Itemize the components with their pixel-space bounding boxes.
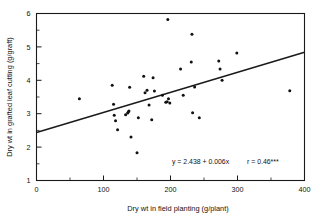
- data-point: [190, 33, 193, 36]
- data-point: [168, 102, 171, 105]
- data-point: [190, 60, 193, 63]
- data-point: [182, 94, 185, 97]
- x-tick-label: 300: [232, 185, 244, 194]
- x-tick-label: 0: [35, 185, 39, 194]
- data-point: [111, 84, 114, 87]
- x-axis-title: Dry wt in field planting (g/plant): [127, 204, 228, 213]
- plot-frame: [37, 14, 305, 181]
- data-point: [221, 79, 224, 82]
- data-point: [128, 86, 131, 89]
- data-point-group: [78, 18, 291, 154]
- data-point: [167, 97, 170, 100]
- data-point: [116, 128, 119, 131]
- data-point: [137, 116, 140, 119]
- y-tick-label: 3: [27, 109, 31, 118]
- data-point: [153, 89, 156, 92]
- data-point: [136, 151, 139, 154]
- correlation-label: r = 0.46***: [247, 158, 279, 165]
- regression-line: [37, 52, 305, 132]
- scatter-plot-figure: 0100200300400 123456 Dry wt in field pla…: [0, 0, 321, 217]
- x-tick-label: 100: [98, 185, 110, 194]
- data-point: [191, 111, 194, 114]
- y-tick-label: 1: [27, 176, 31, 185]
- data-point: [166, 100, 169, 103]
- x-tick-label: 400: [299, 185, 311, 194]
- data-point: [193, 85, 196, 88]
- y-axis-tick-labels: 123456: [27, 9, 31, 185]
- regression-equation-label: y = 2.438 + 0.006x: [172, 158, 230, 166]
- data-point: [129, 136, 132, 139]
- data-point: [146, 89, 149, 92]
- data-point: [217, 59, 220, 62]
- data-point: [114, 119, 117, 122]
- data-point: [219, 67, 222, 70]
- data-point: [150, 118, 153, 121]
- data-point: [198, 116, 201, 119]
- y-tick-label: 2: [27, 143, 31, 152]
- plot-canvas: 0100200300400 123456 Dry wt in field pla…: [0, 0, 321, 217]
- data-point: [112, 103, 115, 106]
- data-point: [166, 18, 169, 21]
- x-axis-major-ticks: [37, 176, 305, 181]
- y-tick-label: 4: [27, 76, 31, 85]
- y-axis-title: Dry wt in grafted leaf cutting (g/graft): [5, 37, 14, 157]
- x-tick-label: 200: [165, 185, 177, 194]
- data-point: [235, 51, 238, 54]
- data-point: [144, 91, 147, 94]
- data-point: [288, 89, 291, 92]
- data-point: [161, 94, 164, 97]
- y-tick-label: 6: [27, 9, 31, 18]
- data-point: [152, 76, 155, 79]
- data-point: [113, 114, 116, 117]
- y-tick-label: 5: [27, 43, 31, 52]
- data-point: [179, 67, 182, 70]
- data-point: [127, 110, 130, 113]
- data-point: [142, 75, 145, 78]
- x-axis-tick-labels: 0100200300400: [35, 185, 311, 194]
- data-point: [148, 104, 151, 107]
- data-point: [78, 97, 81, 100]
